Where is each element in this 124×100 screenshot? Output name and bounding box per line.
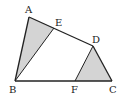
shaded-triangle-abe [15,17,54,81]
label-a: A [24,4,33,15]
shaded-triangle-dfc [75,46,112,81]
label-e: E [55,17,62,28]
geometry-diagram: A E D B F C [0,0,124,100]
label-b: B [9,84,16,95]
label-f: F [71,84,78,95]
label-c: C [109,84,117,95]
label-d: D [92,34,100,45]
